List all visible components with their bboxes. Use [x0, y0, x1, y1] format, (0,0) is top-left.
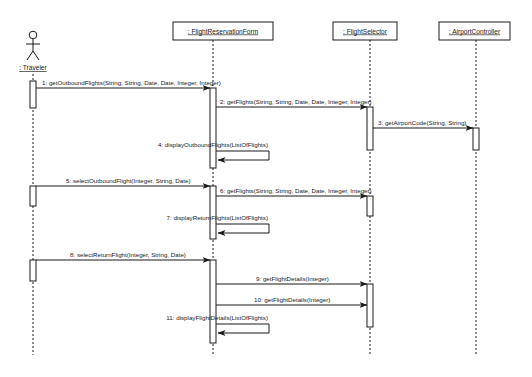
participant-airport-controller: : AirportController	[439, 22, 510, 40]
message-2-label: 2: getFlights(String, String, Date, Date…	[220, 98, 372, 105]
activation-traveler-1	[30, 81, 36, 108]
participant-flight-selector: : FlightSelector	[333, 22, 397, 40]
sequence-diagram: : Traveler : FlightReservationForm : Fli…	[0, 0, 532, 377]
message-11-self-arrow	[216, 324, 269, 333]
participant-flight-reservation-form: : FlightReservationForm	[173, 22, 273, 40]
activation-form-3	[210, 260, 216, 343]
lifelines	[33, 40, 476, 355]
message-8-label: 8: selectReturnFlight(Integer, String, D…	[70, 251, 186, 258]
message-7-label: 7: displayReturnFlights(ListOfFlights)	[167, 214, 268, 221]
activation-airport-1	[473, 128, 479, 150]
activation-form-2	[210, 186, 216, 239]
activation-selector-1	[367, 107, 373, 150]
participant-label-form: : FlightReservationForm	[188, 28, 259, 36]
message-4-self-arrow	[216, 151, 269, 160]
activation-traveler-2	[30, 186, 36, 206]
participant-label-traveler: : Traveler	[19, 64, 47, 71]
activation-traveler-3	[30, 260, 36, 281]
message-1-label: 1: getOutboundFlights(String, String, Da…	[42, 79, 221, 86]
message-7-self-arrow	[216, 224, 269, 233]
message-6-label: 6: getFlights(String, String, Date, Date…	[220, 187, 372, 194]
participant-label-selector: : FlightSelector	[343, 28, 388, 36]
activation-selector-3	[367, 284, 373, 327]
activation-form-1	[210, 88, 216, 168]
message-11-label: 11: displayFlightDetails(ListOfFlights)	[166, 314, 268, 321]
actor-stick-figure-icon	[26, 31, 40, 60]
message-10-label: 10: getFlightDetails(Integer)	[254, 296, 330, 303]
activation-selector-2	[367, 196, 373, 216]
message-4-label: 4: displayOutboundFlights(ListOfFlights)	[158, 141, 268, 148]
message-5-label: 5: selectOutboundFlight(Integer, String,…	[66, 177, 191, 184]
message-labels: 1: getOutboundFlights(String, String, Da…	[42, 79, 466, 321]
message-3-label: 3: getAirportCode(String, String)	[378, 119, 466, 126]
participant-label-airport: : AirportController	[449, 28, 501, 36]
message-9-label: 9: getFlightDetails(Integer)	[256, 275, 329, 282]
participant-traveler: : Traveler	[19, 31, 47, 71]
